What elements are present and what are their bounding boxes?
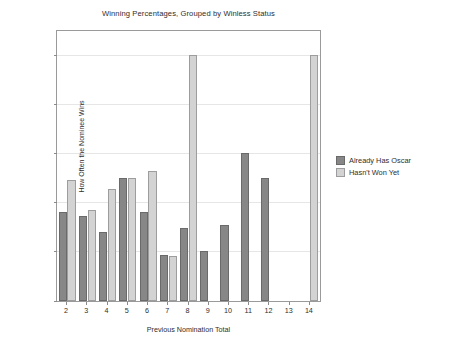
bar-2-series-1 — [67, 180, 75, 301]
bar-4-series-0 — [99, 232, 107, 301]
bar-3-series-1 — [88, 210, 96, 301]
bar-11-series-0 — [241, 153, 249, 301]
legend-item-1[interactable]: Hasn't Won Yet — [336, 167, 454, 178]
x-tick-mark — [167, 302, 168, 305]
legend-label: Already Has Oscar — [349, 156, 411, 165]
x-tick-mark — [228, 302, 229, 305]
x-tick-label-14: 14 — [297, 306, 321, 315]
bar-7-series-1 — [169, 256, 177, 301]
legend-swatch-icon — [336, 168, 345, 177]
y-tick-mark — [54, 202, 57, 203]
x-tick-mark — [208, 302, 209, 305]
x-tick-mark — [248, 302, 249, 305]
x-tick-mark — [289, 302, 290, 305]
y-tick-mark — [54, 251, 57, 252]
bar-9-series-0 — [200, 251, 208, 301]
chart-legend: Already Has OscarHasn't Won Yet — [336, 155, 454, 179]
legend-label: Hasn't Won Yet — [349, 168, 399, 177]
bar-4-series-1 — [108, 189, 116, 301]
y-tick-mark — [54, 55, 57, 56]
y-axis-label: How Often the Nominee Wins — [78, 47, 85, 247]
y-tick-mark — [54, 301, 57, 302]
legend-item-0[interactable]: Already Has Oscar — [336, 155, 454, 166]
bar-14-series-1 — [310, 55, 318, 301]
x-tick-mark — [309, 302, 310, 305]
x-tick-mark — [268, 302, 269, 305]
x-tick-mark — [66, 302, 67, 305]
plot-area — [57, 31, 320, 301]
x-tick-mark — [86, 302, 87, 305]
bar-5-series-1 — [128, 178, 136, 301]
x-tick-mark — [147, 302, 148, 305]
x-axis-label: Previous Nomination Total — [56, 325, 321, 334]
x-tick-mark — [107, 302, 108, 305]
bar-12-series-0 — [261, 178, 269, 301]
y-tick-mark — [54, 104, 57, 105]
bar-8-series-0 — [180, 228, 188, 301]
bar-8-series-1 — [189, 55, 197, 301]
chart-title: Winning Percentages, Grouped by Winless … — [56, 9, 321, 18]
bar-7-series-0 — [160, 255, 168, 301]
plot-frame: How Often the Nominee Wins 0%10%20%30%40… — [56, 30, 321, 302]
legend-swatch-icon — [336, 156, 345, 165]
x-tick-mark — [188, 302, 189, 305]
chart-figure: Winning Percentages, Grouped by Winless … — [0, 0, 458, 344]
bar-10-series-0 — [220, 225, 228, 301]
y-tick-mark — [54, 153, 57, 154]
bar-6-series-0 — [140, 212, 148, 301]
bar-6-series-1 — [148, 171, 156, 301]
bar-2-series-0 — [59, 212, 67, 301]
x-tick-mark — [127, 302, 128, 305]
bar-5-series-0 — [119, 178, 127, 301]
